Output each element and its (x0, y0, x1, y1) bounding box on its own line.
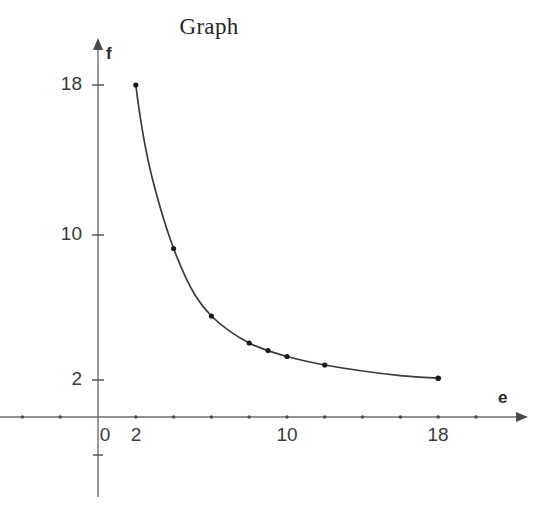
data-point (133, 82, 138, 87)
y-tick-label-2: 2 (42, 368, 82, 390)
data-point (322, 362, 327, 367)
chart-title-text: Graph (180, 14, 239, 39)
data-point (435, 375, 441, 381)
x-tick-label-18: 18 (418, 424, 458, 446)
x-axis (0, 412, 528, 422)
y-axis-label: f (106, 44, 112, 64)
x-axis-label: e (498, 388, 507, 408)
y-tick-label-18: 18 (42, 73, 82, 95)
chart-title: Graph (0, 14, 538, 40)
x-tick-label-10: 10 (267, 424, 307, 446)
data-point (247, 340, 252, 345)
data-point (284, 354, 289, 359)
data-point (265, 348, 270, 353)
y-tick-label-10: 10 (42, 223, 82, 245)
data-point (209, 313, 214, 318)
x-tick-label-2: 2 (116, 424, 156, 446)
graph-figure: Graph (0, 0, 538, 511)
data-points (133, 82, 441, 381)
data-point (171, 246, 176, 251)
data-curve (136, 85, 438, 378)
